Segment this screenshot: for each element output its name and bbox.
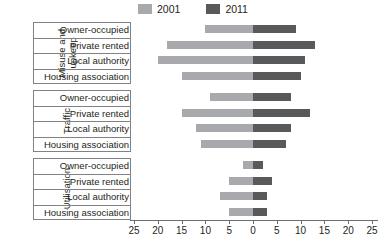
x-axis-tick <box>301 220 302 224</box>
legend-swatch-2011 <box>206 4 220 14</box>
x-axis-tick <box>229 220 230 224</box>
x-axis-tick-label: 20 <box>146 225 170 236</box>
x-axis-tick-label: 15 <box>312 225 336 236</box>
x-axis-tick-label: 15 <box>170 225 194 236</box>
category-row-label: Private rented <box>33 108 129 119</box>
chart-legend: 2001 2011 <box>0 2 386 16</box>
x-axis-tick <box>324 220 325 224</box>
bar-2001 <box>229 208 253 216</box>
x-axis-tick-label: 25 <box>122 225 146 236</box>
bar-2001 <box>182 109 253 117</box>
legend-label-2011: 2011 <box>225 4 248 14</box>
row-divider <box>33 106 131 107</box>
x-axis-tick-label: 20 <box>336 225 360 236</box>
category-row-label: Owner-occupied <box>33 24 129 35</box>
category-row-label: Local authority <box>33 123 129 134</box>
row-divider <box>33 189 131 190</box>
x-axis-tick <box>182 220 183 224</box>
bar-2011 <box>253 177 272 185</box>
x-axis-tick <box>205 220 206 224</box>
category-row-label: Housing association <box>33 207 129 218</box>
row-divider <box>33 205 131 206</box>
bar-2011 <box>253 161 263 169</box>
row-divider <box>33 38 131 39</box>
x-axis-tick <box>372 220 373 224</box>
x-axis-tick <box>253 220 254 224</box>
category-row-label: Private rented <box>33 40 129 51</box>
x-axis-line <box>130 220 378 221</box>
x-axis-tick-label: 5 <box>265 225 289 236</box>
category-group: TrafficOwner-occupiedPrivate rentedLocal… <box>0 90 131 152</box>
row-divider <box>33 137 131 138</box>
bar-2011 <box>253 25 296 33</box>
x-axis-tick-label: 25 <box>360 225 384 236</box>
category-row-label: Owner-occupied <box>33 92 129 103</box>
x-axis-tick <box>277 220 278 224</box>
bar-2011 <box>253 124 291 132</box>
row-divider <box>33 174 131 175</box>
bar-2011 <box>253 192 267 200</box>
bar-2001 <box>158 56 253 64</box>
row-divider <box>33 53 131 54</box>
category-row-label: Housing association <box>33 71 129 82</box>
x-axis-tick-label: 5 <box>217 225 241 236</box>
x-axis-tick <box>134 220 135 224</box>
bar-2011 <box>253 109 310 117</box>
bar-2001 <box>167 41 253 49</box>
bar-2001 <box>182 72 253 80</box>
bar-2011 <box>253 93 291 101</box>
bar-2001 <box>201 140 253 148</box>
row-divider <box>33 69 131 70</box>
bar-2011 <box>253 72 301 80</box>
bar-2011 <box>253 41 315 49</box>
bar-2011 <box>253 56 305 64</box>
x-axis-tick <box>348 220 349 224</box>
bar-2001 <box>243 161 253 169</box>
legend-item-2011: 2011 <box>206 4 248 14</box>
category-row-label: Local authority <box>33 191 129 202</box>
category-row-label: Owner-occupied <box>33 160 129 171</box>
legend-swatch-2001 <box>138 4 152 14</box>
row-divider <box>33 121 131 122</box>
legend-label-2001: 2001 <box>157 4 180 14</box>
bar-2011 <box>253 140 286 148</box>
chart-plot-area: 2520151050510152025 <box>130 20 378 220</box>
bar-2001 <box>196 124 253 132</box>
x-axis-tick <box>158 220 159 224</box>
bar-2001 <box>220 192 253 200</box>
legend-item-2001: 2001 <box>138 4 180 14</box>
category-group: UtilisationOwner-occupiedPrivate rentedL… <box>0 158 131 220</box>
x-axis-tick-label: 10 <box>193 225 217 236</box>
x-axis-tick-label: 0 <box>241 225 265 236</box>
category-row-label: Housing association <box>33 139 129 150</box>
bar-2001 <box>205 25 253 33</box>
x-axis-tick-label: 10 <box>289 225 313 236</box>
bar-2001 <box>210 93 253 101</box>
category-row-label: Local authority <box>33 55 129 66</box>
category-group: Misuse and upkeepOwner-occupiedPrivate r… <box>0 22 131 84</box>
bar-2011 <box>253 208 267 216</box>
bar-2001 <box>229 177 253 185</box>
category-row-label: Private rented <box>33 176 129 187</box>
category-label-table: Misuse and upkeepOwner-occupiedPrivate r… <box>0 20 131 220</box>
